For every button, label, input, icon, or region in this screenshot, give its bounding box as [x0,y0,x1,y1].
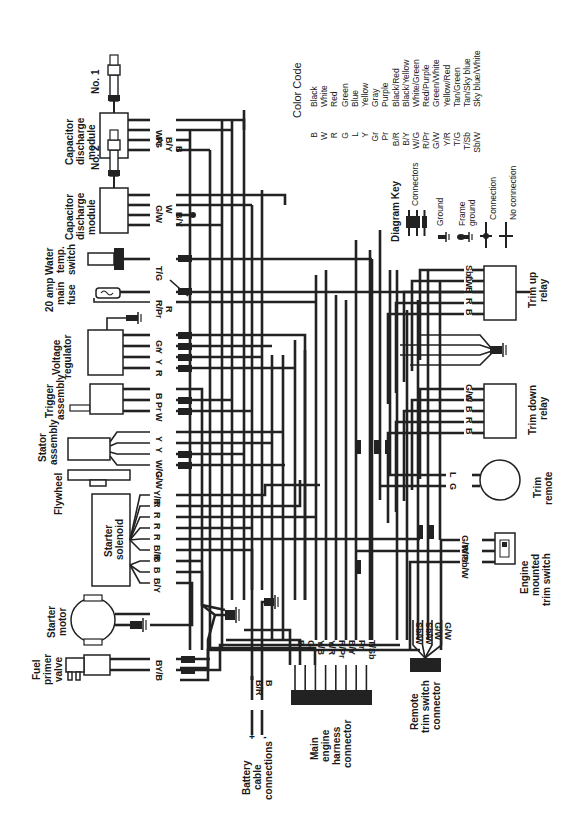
wire-label: B [264,680,274,687]
wire-label: R/Pr [337,640,347,659]
color-code-abbrev: Y/R [442,132,452,146]
wire-label: G/W [443,622,453,641]
color-code-abbrev: B [309,132,319,138]
connection-key-icon [480,222,492,248]
regulator-label-2: regulator [62,335,73,378]
wire-label: B/Y [152,578,162,593]
color-code-name: Sky blue/White [472,50,482,107]
remote-connector-block [410,658,441,672]
cdm1-wires [128,120,244,150]
trim-down-label-1: Trim down [527,385,538,435]
fuse-label-1: 20 amp [44,278,55,312]
primer-label-2: primer [42,654,53,685]
wire-label: B/Y [174,212,184,227]
starter-motor: Starter motor [46,595,150,645]
color-code-abbrev: W/G [411,132,421,149]
trim-up-label-1: Trim up [527,272,538,308]
wire-label: L [464,276,474,282]
wire-label: G [464,395,474,402]
cdm1-label-2: discharge [75,117,86,165]
wire-label: B [464,406,474,413]
color-code-abbrev: R/Pr [421,132,431,149]
trim-switch-label-3: trim switch [541,553,552,606]
wire-label: R [152,534,162,541]
connector-key-icon [406,210,427,236]
wire-label: Y [154,359,164,365]
wire-label: L [448,472,458,478]
wire-label: B [464,428,474,435]
water-temp-label-3: switch [66,244,77,275]
diagram-key-ground: Ground [435,197,445,226]
wire-label: G/W [154,205,164,224]
battery-cable-connections: B/R B + - Battery cable connections [241,640,274,800]
frame-ground-icon [225,607,239,623]
color-code-name: Red [329,91,339,107]
cdm1-plug-label: No. 1 [90,69,101,94]
primer-label-1: Fuel [31,659,42,680]
wire-label: W [154,413,164,422]
diagram-key: Diagram Key Connectors Ground Frame grou… [390,163,518,248]
color-code-abbrev: G [340,132,350,139]
frame-ground-key-icon [457,232,472,242]
color-code-abbrev: L [350,132,360,137]
wire-label: Pr [154,402,164,412]
wire-label: T/G [154,266,164,281]
wire-label: Y/B [316,640,326,656]
diagram-key-connection: Connection [488,177,498,220]
wire-label: B [296,640,306,647]
fuse-label-2: main [55,282,66,305]
color-code-abbrev: G/W [431,132,441,149]
wire-label: B/R [254,680,264,696]
diagram-key-frame-ground: Frame [457,201,467,226]
solenoid-label-1: Starter [103,525,114,557]
color-code-name: Green/White [431,59,441,107]
wire-label: B [152,567,162,574]
starter-motor-label-1: Starter [46,606,57,638]
flywheel-label: Flywheel [53,473,64,515]
wire-label: W [164,205,174,214]
wire-label: Pr [154,137,164,147]
cdm1-label-1: Capacitor [64,119,75,165]
water-temp-label-2: temp. [55,246,66,273]
trim-remote-label-2: remote [543,471,554,505]
remote-trim-switch-connector: Sb/WSb/WG/WG/W Remote trim switch connec… [409,620,453,733]
battery-label-2: cable [252,764,263,790]
wire-label: R [154,370,164,377]
primer-label-3: valve [53,657,64,682]
starter-motor-label-2: motor [57,608,68,636]
diagram-key-frame-ground-2: ground [467,199,477,226]
color-code-abbrev: Sb/W [472,132,482,153]
connection-dot [190,212,196,218]
spark-plug-icon [108,130,120,188]
remote-connector-label-2: trim switch [420,680,431,733]
wire-label: B [464,309,474,316]
engine-mounted-trim-switch: G/W R/Pr Sb/W Engine mounted trim switch [355,533,552,650]
harness-label-3: harness [331,726,342,765]
trim-down-label-2: relay [538,396,549,420]
color-code-abbrev: B/R [391,132,401,146]
trigger-label-2: assembly [55,374,66,420]
color-code-name: Tan/Sky blue [462,58,472,107]
harness-label-4: connector [342,720,353,768]
color-code-name: Yellow/Red [442,65,452,107]
color-code-abbrev: R [329,132,339,138]
cdm2-label-3: module [86,199,97,235]
color-code-name: White/Green [411,59,421,107]
wire-label: B [174,146,184,153]
wire-label: Pr [357,640,367,650]
wire-label: B [152,556,162,563]
color-code-name: Tan/Green [452,67,462,107]
wiring-diagram: Color Code BWRGLYGrPrB/RB/YW/GR/PrG/WY/R… [0,0,582,819]
regulator-label-1: Voltage [51,339,62,375]
color-code-abbrev: B/Y [401,132,411,146]
wire-label: R [152,512,162,519]
harness-label-1: Main [309,737,320,760]
color-code-abbrev: Pr [380,132,390,141]
wire-label: B [154,393,164,400]
color-code-legend: Color Code BWRGLYGrPrB/RB/YW/GR/PrG/WY/R… [291,50,482,153]
trim-down-relay: G/WGBRB Trim down relay [388,384,549,523]
cdm2-label-1: Capacitor [64,194,75,240]
color-code-name: Purple [380,82,390,107]
wire-label: B/Y [164,137,174,152]
wire-label: R [464,298,474,305]
